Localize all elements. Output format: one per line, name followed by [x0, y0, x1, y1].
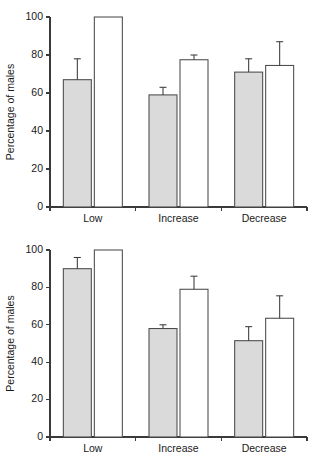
y-tick-label: 0	[37, 200, 43, 212]
bar-increase-white	[180, 60, 208, 207]
figure-two-panel-bar-charts: 020406080100Percentage of malesLowIncrea…	[0, 0, 316, 463]
y-axis-title: Percentage of males	[4, 295, 16, 391]
y-axis-title: Percentage of males	[4, 64, 16, 160]
x-category-label-low: Low	[83, 212, 103, 224]
bar-low-grey	[63, 269, 91, 437]
chart-panel-bottom: 020406080100Percentage of malesLowIncrea…	[0, 232, 316, 463]
y-tick-label: 100	[25, 243, 43, 255]
x-category-label-increase: Increase	[158, 442, 198, 454]
bar-decrease-grey	[235, 341, 263, 437]
y-tick-label: 20	[31, 162, 43, 174]
y-tick-label: 60	[31, 86, 43, 98]
x-category-label-decrease: Decrease	[242, 212, 287, 224]
x-category-label-increase: Increase	[158, 212, 198, 224]
bar-low-grey	[63, 80, 91, 207]
bar-decrease-white	[266, 318, 294, 437]
chart-svg-top: 020406080100Percentage of malesLowIncrea…	[0, 0, 316, 232]
bar-low-white	[94, 17, 122, 207]
y-tick-label: 20	[31, 392, 43, 404]
chart-panel-top: 020406080100Percentage of malesLowIncrea…	[0, 0, 316, 232]
bar-low-white	[94, 250, 122, 437]
chart-svg-bottom: 020406080100Percentage of malesLowIncrea…	[0, 232, 316, 463]
bar-increase-white	[180, 289, 208, 437]
y-tick-label: 80	[31, 280, 43, 292]
y-tick-label: 0	[37, 430, 43, 442]
y-tick-label: 40	[31, 124, 43, 136]
y-tick-label: 40	[31, 355, 43, 367]
x-category-label-decrease: Decrease	[242, 442, 287, 454]
bar-decrease-white	[266, 65, 294, 207]
y-tick-label: 80	[31, 48, 43, 60]
bar-increase-grey	[149, 95, 177, 207]
bar-increase-grey	[149, 329, 177, 437]
x-category-label-low: Low	[83, 442, 103, 454]
y-tick-label: 100	[25, 10, 43, 22]
y-tick-label: 60	[31, 318, 43, 330]
bar-decrease-grey	[235, 72, 263, 207]
